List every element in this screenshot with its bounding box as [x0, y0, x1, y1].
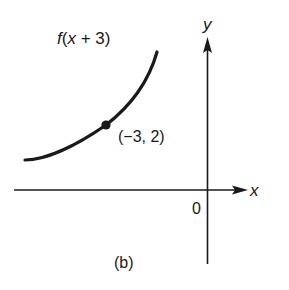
function-label: f(x + 3) — [57, 29, 110, 48]
point-label: (−3, 2) — [118, 128, 165, 145]
point-marker — [101, 120, 110, 129]
y-axis-label: y — [202, 15, 213, 34]
figure-caption: (b) — [114, 254, 134, 271]
origin-label: 0 — [192, 200, 201, 217]
x-axis-label: x — [249, 181, 259, 200]
graph-figure: f(x + 3) (−3, 2) y x 0 (b) — [0, 0, 289, 290]
